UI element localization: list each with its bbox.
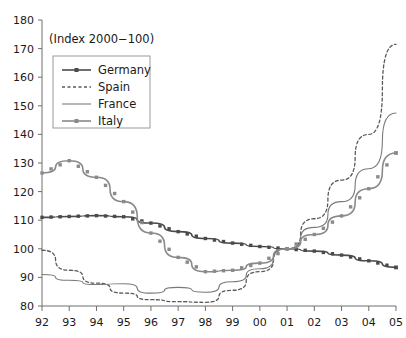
series-marker [294, 242, 297, 245]
series-marker [331, 220, 334, 223]
x-tick-label: 01 [280, 316, 294, 329]
series-marker [249, 244, 252, 247]
series-marker [68, 159, 71, 162]
series-marker [122, 200, 125, 203]
series-marker [331, 252, 334, 255]
series-marker [213, 270, 216, 273]
series-marker [313, 249, 316, 252]
series-marker [158, 224, 161, 227]
series-marker [240, 243, 243, 246]
series-marker [322, 227, 325, 230]
series-marker [213, 238, 216, 241]
y-tick-label: 130 [13, 157, 34, 170]
series-line-france [42, 113, 396, 293]
series-marker [267, 246, 270, 249]
series-marker [68, 215, 71, 218]
series-marker [231, 241, 234, 244]
x-tick-label: 99 [226, 316, 240, 329]
y-tick-label: 120 [13, 186, 34, 199]
series-marker [49, 215, 52, 218]
series-marker [385, 163, 388, 166]
index-note-text: (Index 2000−100) [49, 32, 154, 46]
y-tick-label: 150 [13, 100, 34, 113]
series-marker [394, 151, 398, 155]
series-marker [376, 261, 379, 264]
legend-label-germany: Germany [98, 63, 151, 77]
x-tick-label: 93 [62, 316, 76, 329]
series-marker [349, 255, 352, 258]
line-chart-figure: 8090100110120130140150160170180 92939495… [0, 0, 406, 338]
series-marker [58, 215, 61, 218]
series-marker [304, 238, 307, 241]
series-marker [258, 261, 261, 264]
y-tick-label: 80 [20, 300, 34, 313]
series-marker [113, 192, 116, 195]
series-marker [195, 235, 198, 238]
x-axis: 9293949596979899000102030405 [35, 306, 403, 329]
y-tick-label: 100 [13, 243, 34, 256]
series-marker [40, 171, 43, 174]
x-tick-label: 03 [335, 316, 349, 329]
chart-legend: GermanySpainFranceItaly [53, 56, 151, 128]
series-marker [204, 237, 207, 240]
series-marker [358, 257, 361, 260]
y-tick-label: 160 [13, 71, 34, 84]
series-marker [95, 214, 98, 217]
series-marker [186, 232, 189, 235]
series-marker [149, 231, 152, 234]
series-marker [276, 252, 279, 255]
series-marker [40, 216, 43, 219]
x-tick-label: 94 [89, 316, 103, 329]
x-tick-label: 95 [117, 316, 131, 329]
series-marker [158, 239, 161, 242]
x-tick-label: 97 [171, 316, 185, 329]
series-marker [167, 227, 170, 230]
series-marker [340, 214, 343, 217]
series-marker [376, 175, 379, 178]
series-marker [131, 217, 134, 220]
legend-label-france: France [98, 97, 136, 111]
series-line-germany [42, 216, 396, 268]
series-marker [104, 184, 107, 187]
series-marker [167, 248, 170, 251]
series-marker [258, 245, 261, 248]
y-axis: 8090100110120130140150160170180 [13, 14, 42, 313]
x-tick-label: 92 [35, 316, 49, 329]
series-marker [313, 233, 316, 236]
series-marker [285, 247, 288, 250]
series-marker [222, 240, 225, 243]
x-tick-label: 96 [144, 316, 158, 329]
y-tick-label: 90 [20, 271, 34, 284]
series-marker [304, 249, 307, 252]
y-tick-label: 110 [13, 214, 34, 227]
series-marker [122, 215, 125, 218]
series-marker [149, 221, 152, 224]
series-marker [367, 187, 370, 190]
series-marker [49, 167, 52, 170]
series-marker [249, 264, 252, 267]
y-tick-label: 170 [13, 43, 34, 56]
series-marker [186, 260, 189, 263]
series-marker [176, 230, 179, 233]
x-tick-label: 05 [389, 316, 403, 329]
y-tick-label: 180 [13, 14, 34, 27]
series-marker [222, 269, 225, 272]
series-marker [349, 205, 352, 208]
series-marker [358, 196, 361, 199]
series-marker [86, 170, 89, 173]
series-marker [204, 270, 207, 273]
series-marker [104, 214, 107, 217]
series-marker [231, 269, 234, 272]
series-marker [95, 176, 98, 179]
legend-marker [75, 119, 79, 123]
series-marker [322, 251, 325, 254]
series-marker [86, 214, 89, 217]
series-marker [195, 265, 198, 268]
series-marker [385, 264, 388, 267]
series-marker [176, 256, 179, 259]
series-marker [77, 215, 80, 218]
legend-marker [75, 68, 79, 72]
series-marker [113, 215, 116, 218]
series-marker [394, 265, 398, 269]
x-tick-label: 00 [253, 316, 267, 329]
